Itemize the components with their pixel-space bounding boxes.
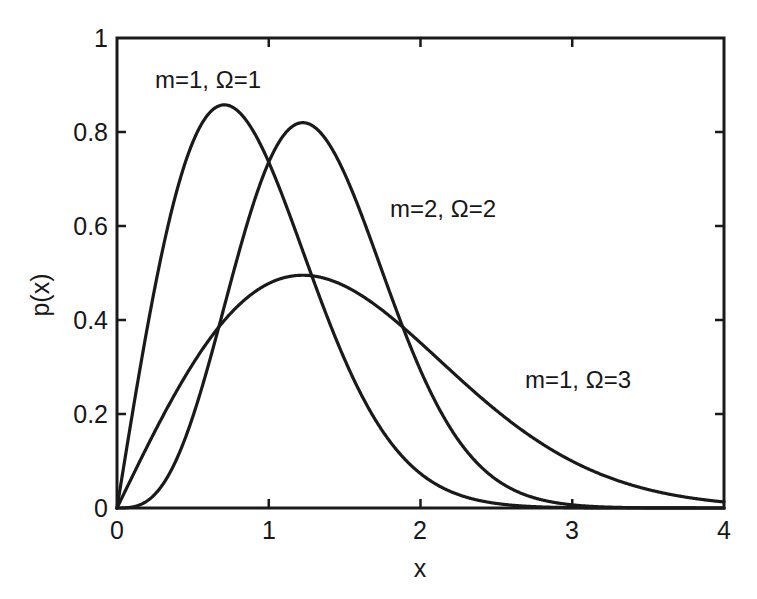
xtick-label-0: 0 [110, 518, 124, 543]
data-curves [117, 105, 724, 508]
ytick-label-0-6: 0.6 [40, 214, 108, 239]
axes-frame [117, 38, 724, 508]
curve-annotation-m1-omega1: m=1, Ω=1 [155, 68, 261, 92]
plot-canvas [0, 0, 757, 599]
curve-annotation-m1-omega3: m=1, Ω=3 [525, 368, 631, 392]
ytick-label-0: 0 [60, 496, 108, 521]
xtick-label-3: 3 [565, 518, 579, 543]
xtick-label-1: 1 [262, 518, 276, 543]
y-axis-title: p(x) [28, 273, 53, 316]
ytick-label-0-8: 0.8 [40, 120, 108, 145]
ytick-label-0-2: 0.2 [40, 402, 108, 427]
curve-annotation-m2-omega2: m=2, Ω=2 [390, 197, 496, 221]
ytick-label-1: 1 [60, 26, 108, 51]
curve-0-m1-omega1 [117, 105, 724, 508]
nakagami-pdf-figure: 0 0.2 0.4 0.6 0.8 1 0 1 2 3 4 p(x) x m=1… [0, 0, 757, 599]
curve-1-m2-omega2 [117, 123, 724, 508]
xtick-label-2: 2 [413, 518, 427, 543]
plot-border [117, 38, 724, 508]
tick-marks [117, 38, 724, 508]
x-axis-title: x [414, 556, 427, 581]
xtick-label-4: 4 [717, 518, 731, 543]
